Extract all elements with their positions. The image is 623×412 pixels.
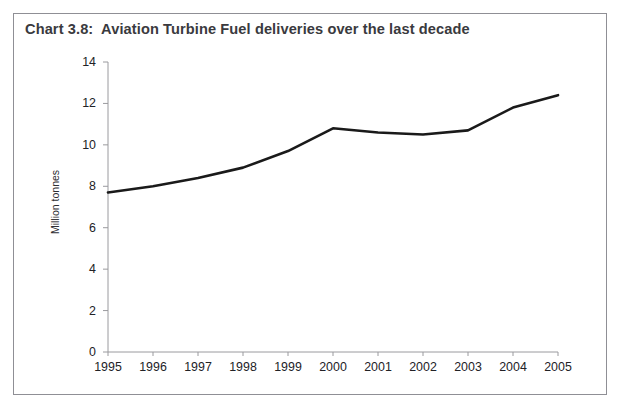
chart-frame [13,13,607,395]
chart-title: Chart 3.8: Aviation Turbine Fuel deliver… [25,21,470,37]
scan-artifact-text: · · ▪ · [0,0,623,12]
